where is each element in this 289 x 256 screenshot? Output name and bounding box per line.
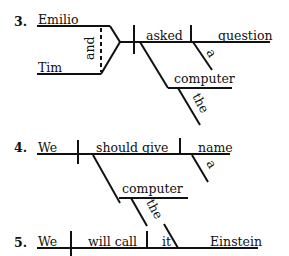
object-word: name: [198, 140, 233, 155]
subject-word: Tim: [38, 60, 62, 75]
diagram-3: 3. Emilio Tim and asked question a compu…: [14, 12, 272, 125]
modifier-word: a: [203, 157, 220, 171]
verb-word: asked: [146, 28, 183, 43]
diagram-4: 4. We should give name a computer the: [14, 138, 233, 226]
subject-word: We: [38, 234, 57, 249]
sentence-diagrams: 3. Emilio Tim and asked question a compu…: [0, 0, 289, 256]
modifier-word: the: [143, 196, 166, 221]
object-word: question: [218, 28, 272, 43]
complement-word: Einstein: [210, 234, 262, 249]
indirect-object-word: computer: [174, 71, 235, 86]
indirect-object-word: computer: [122, 181, 183, 196]
diagram-number: 4.: [14, 140, 27, 155]
subject-word: We: [38, 140, 57, 155]
object-word: it: [162, 234, 171, 249]
diagram-number: 3.: [14, 14, 27, 29]
conjunction-word: and: [82, 36, 97, 60]
diagram-5: 5. We will call it Einstein: [14, 224, 262, 256]
subject-word: Emilio: [38, 12, 79, 27]
diagram-number: 5.: [14, 235, 27, 250]
verb-word: should give: [96, 140, 168, 155]
verb-word: will call: [88, 234, 137, 249]
modifier-word: a: [203, 46, 220, 60]
